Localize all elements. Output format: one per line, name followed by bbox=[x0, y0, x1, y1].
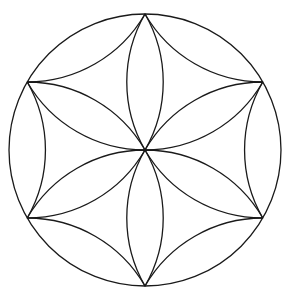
petal-4 bbox=[127, 150, 163, 286]
petal-1 bbox=[127, 14, 163, 150]
scallop-arc-5 bbox=[27, 82, 45, 218]
scallop-arc-2 bbox=[245, 82, 263, 218]
petal-group bbox=[27, 14, 263, 286]
hexafoil-diagram bbox=[0, 0, 287, 300]
